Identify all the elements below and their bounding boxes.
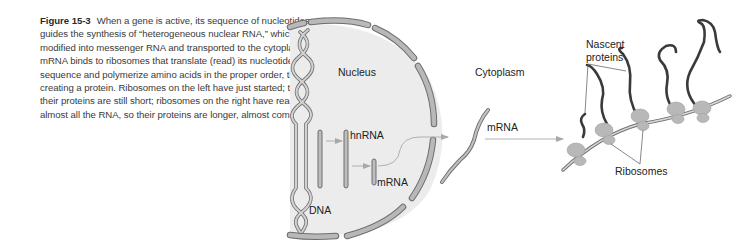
mrna-nuclear-strand	[372, 159, 376, 185]
transcript-strand	[318, 130, 322, 188]
nucleus-label: Nucleus	[338, 66, 376, 78]
hnrna-label: hnRNA	[350, 129, 384, 141]
gene-expression-diagram: hnRNA mRNA Nucleus DNA Cytoplasm mRNA	[0, 0, 754, 251]
nascent-proteins-label-line2: proteins	[586, 51, 623, 63]
ribosomes-label: Ribosomes	[615, 165, 668, 177]
hnrna-strand	[344, 130, 348, 188]
ribosomes-leader-lines	[611, 130, 643, 164]
nascent-proteins-label-line1: Nascent	[586, 38, 625, 50]
cytoplasm-label: Cytoplasm	[475, 66, 525, 78]
dna-label: DNA	[309, 204, 331, 216]
nascent-proteins-leader-lines	[585, 64, 626, 113]
cytoplasm-mrna-strand	[442, 110, 488, 182]
ribosome	[693, 101, 711, 123]
mrna-nuclear-label: mRNA	[377, 176, 408, 188]
ribosome	[667, 102, 685, 124]
mrna-cytoplasm-label: mRNA	[487, 121, 518, 133]
